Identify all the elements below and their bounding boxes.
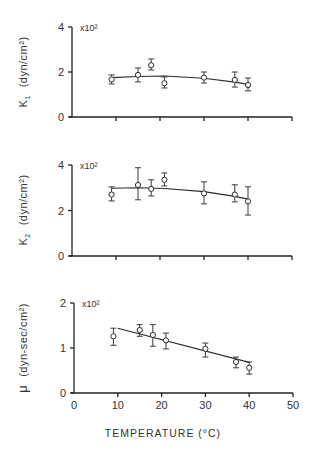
y-tick-label: 0 (58, 250, 64, 262)
y-tick-label: 4 (58, 21, 64, 33)
open-circle-marker (162, 177, 167, 182)
figure-container: 024x10² 024x10² 012x10²01020304050 K1(dy… (0, 0, 315, 458)
open-circle-marker (150, 332, 155, 337)
k2-subscript: 2 (24, 233, 31, 237)
k1-y-axis-title: K1(dyn/cm²) (17, 36, 31, 107)
data-point (135, 168, 141, 200)
x-tick-label: 20 (155, 399, 167, 411)
y-tick-label: 1 (60, 342, 66, 354)
open-circle-marker (201, 75, 206, 80)
data-point (163, 333, 169, 349)
data-point (246, 362, 252, 374)
open-circle-marker (245, 199, 250, 204)
k2-units: (dyn/cm²) (17, 174, 29, 225)
open-circle-marker (111, 334, 116, 339)
k2-symbol: K (17, 238, 29, 246)
open-circle-marker (232, 192, 237, 197)
y-tick-label: 2 (58, 205, 64, 217)
k1-fit-line (112, 76, 248, 84)
x-tick-label: 30 (199, 399, 211, 411)
data-point (150, 325, 156, 347)
y-tick-label: 2 (60, 297, 66, 309)
x-axis-title: TEMPERATURE (°C) (105, 427, 221, 439)
data-point (135, 68, 141, 82)
data-point (245, 78, 251, 91)
panel-k1: 024x10² (58, 21, 292, 123)
data-point (232, 185, 238, 202)
y-tick-label: 0 (58, 111, 64, 123)
k1-multiplier-label: x10² (80, 23, 98, 33)
k1-subscript: 1 (24, 95, 31, 99)
svg-text:K1(dyn/cm²): K1(dyn/cm²) (17, 36, 31, 107)
open-circle-marker (137, 327, 142, 332)
open-circle-marker (232, 77, 237, 82)
open-circle-marker (149, 186, 154, 191)
x-tick-label: 40 (243, 399, 255, 411)
data-point (148, 59, 154, 70)
y-tick-label: 0 (60, 387, 66, 399)
k2-y-axis-title: K2(dyn/cm²) (17, 174, 31, 245)
data-point (232, 72, 238, 87)
data-point (109, 187, 115, 201)
panel-viscosity: 012x10²01020304050 (60, 297, 299, 411)
k1-symbol: K (17, 100, 29, 108)
open-circle-marker (163, 338, 168, 343)
open-circle-marker (109, 192, 114, 197)
mu-symbol: μ (15, 385, 30, 393)
open-circle-marker (247, 365, 252, 370)
svg-text:K2(dyn/cm²): K2(dyn/cm²) (17, 174, 31, 245)
data-point (109, 75, 115, 84)
k2-fit-line (112, 188, 248, 199)
x-tick-label: 10 (112, 399, 124, 411)
open-circle-marker (162, 81, 167, 86)
y-tick-label: 2 (58, 66, 64, 78)
data-point (110, 328, 116, 345)
k1-units: (dyn/cm²) (17, 36, 29, 87)
x-tick-label: 0 (71, 399, 77, 411)
data-point (245, 187, 251, 215)
open-circle-marker (149, 63, 154, 68)
open-circle-marker (109, 77, 114, 82)
data-point (161, 77, 167, 88)
x-tick-label: 50 (287, 399, 299, 411)
mu-y-axis-title: μ(dyn-sec/cm²) (15, 303, 30, 393)
panel-k2: 024x10² (58, 159, 292, 262)
data-point (201, 182, 207, 204)
open-circle-marker (135, 182, 140, 187)
open-circle-marker (203, 346, 208, 351)
open-circle-marker (233, 359, 238, 364)
open-circle-marker (245, 82, 250, 87)
mu-fit-line (118, 328, 249, 362)
data-point (161, 173, 167, 186)
data-point (148, 180, 154, 196)
open-circle-marker (135, 72, 140, 77)
open-circle-marker (201, 191, 206, 196)
mu-units: (dyn-sec/cm²) (17, 303, 29, 377)
mu-multiplier-label: x10² (82, 299, 100, 309)
three-panel-chart: 024x10² 024x10² 012x10²01020304050 K1(dy… (0, 0, 315, 458)
k2-multiplier-label: x10² (80, 161, 98, 171)
data-point (202, 343, 208, 357)
data-point (201, 72, 207, 83)
y-tick-label: 4 (58, 159, 64, 171)
svg-text:μ(dyn-sec/cm²): μ(dyn-sec/cm²) (15, 303, 30, 393)
